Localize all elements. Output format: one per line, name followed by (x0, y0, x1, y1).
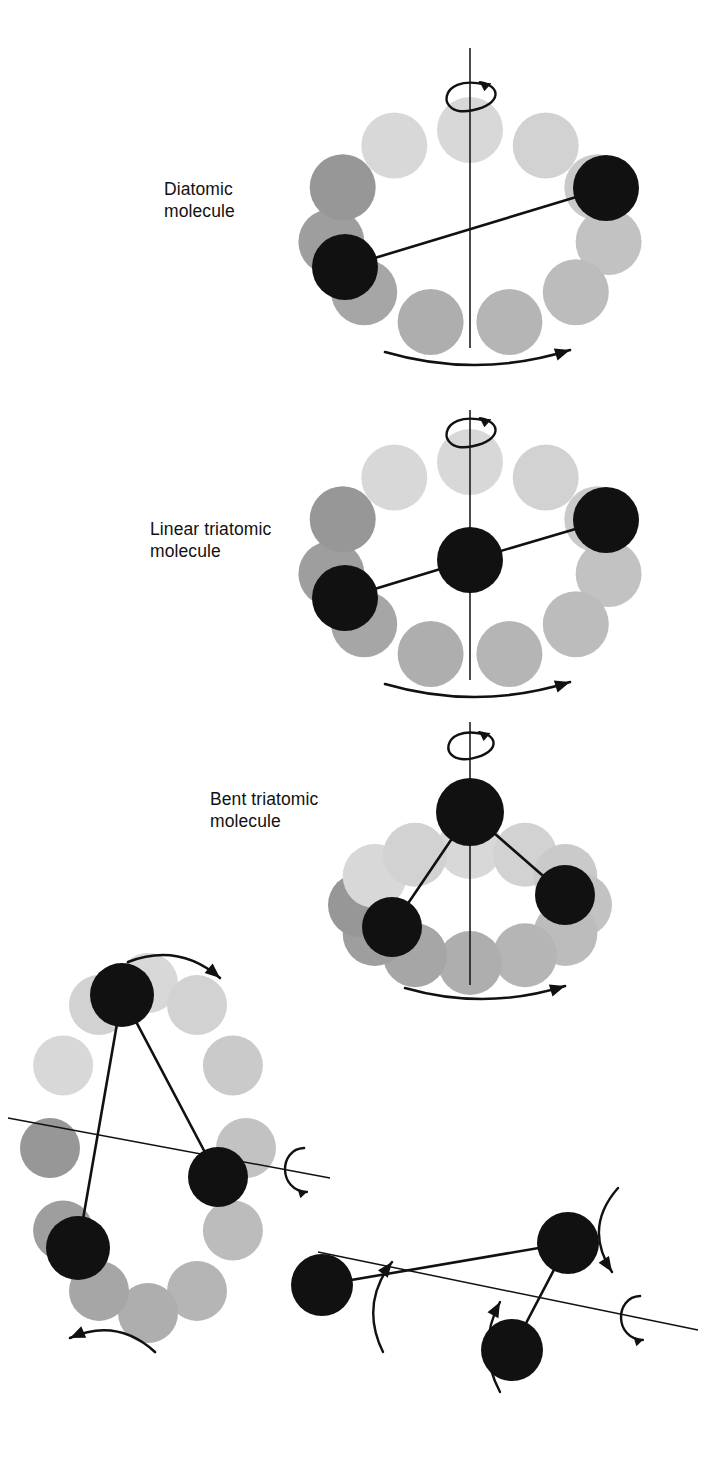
ghost-atom (543, 591, 609, 657)
panel-bent-triatomic (328, 722, 612, 999)
arrow-head (205, 964, 220, 978)
atom-sphere (437, 527, 503, 593)
ghost-atom (203, 1201, 263, 1261)
ghost-atom (310, 154, 376, 220)
arrow-head (554, 681, 570, 693)
panel-bent-inplane-b (291, 1188, 698, 1392)
atom-sphere (362, 897, 422, 957)
axis-spin-symbol (448, 732, 493, 759)
rotation-direction-arrow (385, 349, 570, 365)
arrow-shaft (385, 350, 570, 365)
rotation-direction-arrow-right (599, 1188, 618, 1272)
atom-sphere (188, 1147, 248, 1207)
label-diatomic: Diatomic molecule (164, 178, 235, 222)
rotational-motion-figure: Diatomic molecule Linear triatomic molec… (0, 0, 710, 1465)
bond-line (345, 188, 606, 267)
atom-sphere (46, 1216, 110, 1280)
panel-bent-inplane-a (8, 953, 330, 1352)
rotation-direction-arrow (385, 681, 570, 697)
label-linear-triatomic: Linear triatomic molecule (150, 518, 271, 562)
molecule-diagram-canvas (0, 0, 710, 1465)
atom-sphere (291, 1254, 353, 1316)
atom-sphere (436, 778, 504, 846)
atom-sphere (537, 1212, 599, 1274)
arrow-head (549, 985, 565, 997)
ghost-atom (361, 113, 427, 179)
panel-diatomic (298, 48, 641, 365)
ghost-atom (513, 445, 579, 511)
rotation-axis (318, 1252, 698, 1330)
label-bent-triatomic: Bent triatomic molecule (210, 788, 318, 832)
atom-sphere (573, 155, 639, 221)
ghost-atom (383, 823, 447, 887)
ghost-atom (543, 259, 609, 325)
ghost-atom (33, 1036, 93, 1096)
arrow-shaft (385, 682, 570, 697)
atom-sphere (535, 865, 595, 925)
ghost-atom (513, 113, 579, 179)
ghost-atom (310, 486, 376, 552)
atom-sphere (312, 565, 378, 631)
ghost-atom (398, 621, 464, 687)
axis-spin-symbol (621, 1296, 643, 1346)
ghost-atom (361, 445, 427, 511)
ghost-atom (476, 289, 542, 355)
atom-sphere (312, 234, 378, 300)
ghost-atom (476, 621, 542, 687)
ghost-atom (167, 975, 227, 1035)
ghost-atom (398, 289, 464, 355)
panel-linear-triatomic (298, 410, 641, 697)
ghost-atom (203, 1036, 263, 1096)
ghost-atom (20, 1118, 80, 1178)
arrow-head (554, 349, 570, 361)
atom-sphere (90, 963, 154, 1027)
atom-sphere (573, 487, 639, 553)
ghost-atom (493, 923, 557, 987)
arrow-head (70, 1326, 86, 1338)
